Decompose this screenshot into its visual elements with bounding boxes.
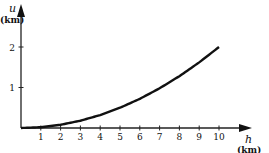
axes [17,4,252,132]
y-tick-label: 1 [9,83,15,93]
x-axis-arrow-icon [239,124,252,132]
x-tick-label: 1 [38,132,44,142]
chart: 12345678910 12 u (km) h (km) [0,0,269,153]
x-tick-label: 9 [196,132,202,142]
data-curve [21,47,219,128]
x-tick-label: 7 [157,132,163,142]
x-tick-label: 5 [117,132,123,142]
x-tick-label: 6 [137,132,143,142]
x-tick-label: 3 [78,132,84,142]
x-tick-label: 2 [58,132,64,142]
y-axis-unit: (km) [0,15,24,25]
x-tick-label: 10 [213,132,225,142]
chart-svg: 12345678910 12 u (km) h (km) [0,0,269,153]
y-tick-label: 2 [9,43,15,53]
x-axis-unit: (km) [237,145,261,153]
y-axis-label: u [9,2,16,15]
x-tick-label: 4 [97,132,103,142]
x-tick-label: 8 [177,132,183,142]
